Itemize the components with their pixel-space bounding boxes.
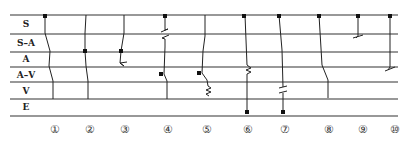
row-labels: S S–A A A–V V E	[16, 19, 36, 112]
row-label-s-a: S–A	[17, 38, 36, 48]
column-number-5: ⑤	[202, 123, 212, 136]
node-dot-icon	[281, 110, 285, 114]
break-mark-icon	[246, 65, 251, 74]
node-dot-icon	[245, 110, 249, 114]
column-number-2: ②	[85, 123, 95, 136]
column-8	[317, 14, 328, 98]
node-dot-icon	[119, 49, 123, 53]
column-10	[385, 14, 395, 71]
node-dot-icon	[317, 14, 321, 18]
column-line-1	[45, 15, 53, 99]
column-number-10: ⑩	[390, 123, 400, 136]
node-dot-icon	[242, 14, 246, 18]
column-number-8: ⑧	[324, 123, 334, 136]
column-1	[43, 14, 53, 99]
column-line-6	[245, 15, 247, 112]
column-number-1: ①	[50, 123, 60, 136]
break-mark-icon	[120, 62, 127, 66]
column-number-3: ③	[120, 123, 130, 136]
node-dot-icon	[159, 72, 163, 76]
column-line-8	[319, 15, 328, 98]
column-4	[159, 14, 169, 99]
column-number-4: ④	[163, 123, 173, 136]
column-2	[83, 15, 88, 99]
column-3	[119, 15, 127, 66]
stratigraphy-diagram: S S–A A A–V V E ① ② ③ ④ ⑤ ⑥ ⑦ ⑧ ⑨ ⑩	[0, 0, 409, 143]
row-label-s: S	[23, 19, 30, 29]
row-lines	[10, 15, 398, 116]
node-dot-icon	[43, 14, 47, 18]
column-number-7: ⑦	[280, 123, 290, 136]
column-number-6: ⑥	[243, 123, 253, 136]
row-label-e: E	[23, 102, 30, 112]
column-line-3	[120, 15, 124, 66]
column-numbers: ① ② ③ ④ ⑤ ⑥ ⑦ ⑧ ⑨ ⑩	[50, 123, 400, 136]
column-line-5	[202, 15, 211, 96]
node-dot-icon	[356, 14, 360, 18]
column-line-2	[85, 15, 88, 99]
row-label-v: V	[22, 86, 31, 96]
node-dot-icon	[197, 71, 201, 75]
node-dot-icon	[277, 14, 281, 18]
break-mark-icon	[279, 86, 287, 93]
diagram-canvas: S S–A A A–V V E ① ② ③ ④ ⑤ ⑥ ⑦ ⑧ ⑨ ⑩	[0, 0, 409, 143]
node-dot-icon	[388, 14, 392, 18]
row-label-a-v: A–V	[16, 70, 36, 80]
column-number-9: ⑨	[358, 123, 368, 136]
node-dot-icon	[163, 14, 167, 18]
column-line-4	[164, 15, 167, 99]
column-5	[197, 15, 211, 96]
row-label-a: A	[22, 54, 31, 64]
column-line-7	[279, 15, 283, 112]
node-dot-icon	[83, 49, 87, 53]
